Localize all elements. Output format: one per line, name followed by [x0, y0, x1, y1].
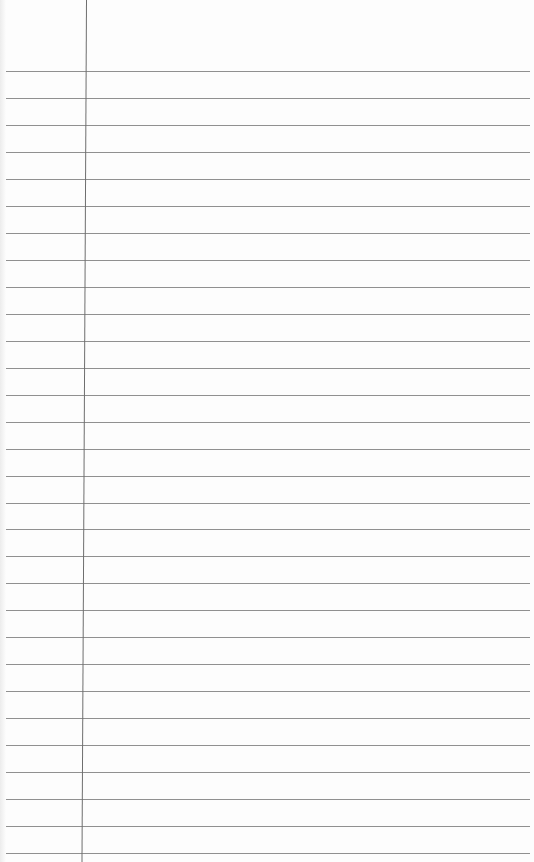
ruled-line: [6, 691, 530, 692]
ruled-line: [6, 71, 530, 72]
ruled-line: [6, 826, 530, 827]
ruled-line: [6, 529, 530, 530]
ruled-line: [6, 772, 530, 773]
ruled-line: [6, 503, 530, 504]
ruled-line: [6, 610, 530, 611]
ruled-line: [6, 718, 530, 719]
paper-edge: [0, 0, 6, 862]
notepaper: [0, 0, 534, 862]
ruled-line: [6, 853, 530, 854]
ruled-line: [6, 637, 530, 638]
ruled-line: [6, 799, 530, 800]
margin-line: [81, 0, 87, 862]
ruled-line: [6, 664, 530, 665]
ruled-line: [6, 583, 530, 584]
ruled-line: [6, 556, 530, 557]
ruled-line: [6, 745, 530, 746]
ruled-line: [6, 476, 530, 477]
